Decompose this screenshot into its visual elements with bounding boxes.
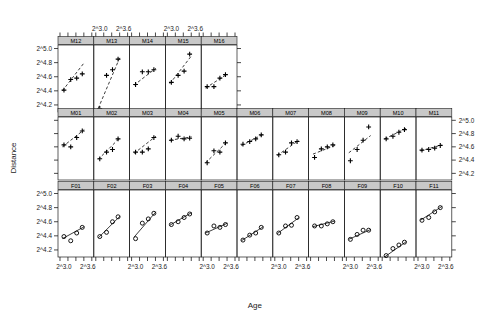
panel-frame [130,45,166,112]
fitted-line [170,56,192,84]
data-point-plus [169,138,174,143]
data-point-circle [212,224,216,228]
data-point-plus [140,150,145,155]
panel-F11: F11 [416,182,452,258]
svg-text:F11: F11 [429,183,438,189]
data-point-plus [176,134,181,139]
y-axis-tick-label: 2^4.6 [37,73,53,80]
panel-M02: M02 [94,109,130,181]
x-axis-tick-label: 2^3.0 [199,263,215,270]
data-point-plus [182,69,187,74]
x-axis-bottom: 2^3.02^3.62^3.02^3.62^3.02^3.62^3.02^3.6… [56,257,454,270]
x-axis-tick-label: 2^3.6 [116,25,132,32]
y-axis-middle-right: 2^5.02^4.82^4.62^4.42^4.2 [452,117,475,177]
panel-F05: F05 [201,182,237,258]
svg-text:F01: F01 [71,183,81,189]
svg-text:F10: F10 [393,183,403,189]
panel-M09: M09 [344,109,380,181]
svg-text:M04: M04 [178,110,189,116]
fitted-line [349,136,371,153]
panel-M07: M07 [273,109,309,181]
svg-text:F03: F03 [143,183,153,189]
panel-M06: M06 [237,109,273,181]
data-point-plus [402,127,407,132]
data-point-circle [361,228,365,232]
panel-M14: M14 [130,37,166,113]
data-point-plus [74,76,79,81]
y-axis-bottom-left: 2^5.02^4.82^4.62^4.42^4.2 [37,190,58,253]
fitted-line [98,138,120,160]
data-point-plus [223,140,228,145]
panel-M03: M03 [130,109,166,181]
svg-text:M14: M14 [142,38,153,44]
y-axis-bottom-right [452,194,456,250]
panel-frame [165,45,201,112]
x-axis-tick-label: 2^3.0 [56,263,72,270]
data-point-plus [247,139,252,144]
panel-frame [165,117,201,180]
data-point-plus [384,136,389,141]
data-point-plus [283,150,288,155]
data-point-plus [182,136,187,141]
data-point-plus [110,67,115,72]
data-point-plus [80,72,85,77]
panel-M10: M10 [380,109,416,181]
x-axis-tick-label: 2^3.0 [414,263,430,270]
fitted-line [134,212,156,237]
svg-text:M16: M16 [214,38,225,44]
x-axis-tick-label: 2^3.6 [188,25,204,32]
panel-M15: M15 [165,37,201,113]
panel-frame [165,190,201,257]
data-point-plus [396,130,401,135]
data-point-plus [169,80,174,85]
panel-F04: F04 [165,182,201,258]
svg-text:M13: M13 [106,38,117,44]
svg-text:F06: F06 [250,183,260,189]
data-point-plus [420,148,425,153]
svg-text:M08: M08 [321,110,332,116]
data-point-circle [427,216,431,220]
panel-frame [344,190,380,257]
x-axis-tick-label: 2^3.0 [128,263,144,270]
data-point-plus [391,134,396,139]
x-axis-tick-label: 2^3.6 [438,263,454,270]
x-axis-tick-label: 2^3.6 [80,263,96,270]
panel-frame [273,117,309,180]
panel-frame [201,117,237,180]
panel-F09: F09 [344,182,380,258]
panel-frame [237,190,273,257]
y-axis-tick-label: 2^5.0 [37,190,53,197]
panel-frame [309,117,345,180]
panel-frame [58,117,94,180]
panel-frame [201,190,237,257]
data-point-plus [133,150,138,155]
fitted-line [62,130,84,147]
svg-text:F04: F04 [178,183,188,189]
data-point-plus [355,147,360,152]
panel-F08: F08 [309,182,345,258]
svg-text:M06: M06 [249,110,260,116]
panel-F03: F03 [130,182,166,258]
fitted-line [313,146,335,155]
y-axis-tick-label: 2^4.8 [37,59,53,66]
y-axis-tick-label: 2^4.2 [459,170,475,177]
svg-text:M05: M05 [214,110,225,116]
y-axis-top-left: 2^5.02^4.82^4.62^4.42^4.2 [37,45,58,108]
y-axis-tick-label: 2^4.4 [37,232,53,239]
data-point-plus [325,144,330,149]
svg-text:M02: M02 [106,110,117,116]
data-point-circle [134,237,138,241]
svg-text:F02: F02 [107,183,117,189]
data-point-plus [110,147,115,152]
fitted-line [206,142,228,163]
x-axis-tick-label: 2^3.6 [295,263,311,270]
data-point-plus [366,125,371,130]
data-point-circle [75,231,79,235]
data-point-plus [259,133,264,138]
data-point-plus [312,155,317,160]
fitted-line [420,206,442,220]
x-axis-tick-label: 2^3.0 [343,263,359,270]
fitted-line [206,74,228,88]
svg-text:F05: F05 [214,183,224,189]
panel-F06: F06 [237,182,273,258]
